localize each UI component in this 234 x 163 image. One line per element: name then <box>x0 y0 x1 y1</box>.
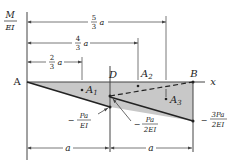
svg-text:a: a <box>84 39 89 48</box>
svg-text:2EI: 2EI <box>211 121 225 129</box>
svg-text:3: 3 <box>76 44 80 52</box>
centroid-a2 <box>137 85 140 88</box>
point-b-label: B <box>189 68 197 79</box>
svg-text:a: a <box>58 58 63 67</box>
svg-text:2: 2 <box>50 54 54 62</box>
point-d-mid <box>109 95 112 98</box>
y-axis-label-den: EI <box>5 23 16 32</box>
point-b <box>192 81 195 84</box>
svg-text:−: − <box>68 116 75 125</box>
point-d-bottom <box>109 106 112 109</box>
value-at-b: − 3Pa 2EI <box>201 111 227 129</box>
centroid-a3 <box>165 98 168 101</box>
svg-text:Pa: Pa <box>79 112 89 120</box>
svg-text:a: a <box>100 18 105 27</box>
x-axis-label: x <box>210 76 216 87</box>
point-a-label: A <box>12 76 21 87</box>
svg-text:3Pa: 3Pa <box>211 111 224 119</box>
svg-text:−: − <box>201 116 208 125</box>
svg-text:−: − <box>134 120 141 129</box>
leader-pa-ei <box>98 108 108 114</box>
point-b-bottom <box>192 120 195 123</box>
y-axis-label-num: M <box>4 10 15 20</box>
value-mid: − Pa 2EI <box>134 116 158 134</box>
point-d-label: D <box>108 69 117 80</box>
svg-text:2EI: 2EI <box>143 126 157 134</box>
moment-diagram: M EI x A D B A1 A2 A3 5 3 a 4 3 a 2 3 a … <box>0 0 234 163</box>
dim-bottom-a-left-label: a <box>65 143 70 153</box>
svg-text:3: 3 <box>50 63 54 71</box>
svg-text:3: 3 <box>92 23 96 31</box>
svg-text:EI: EI <box>79 122 88 130</box>
area-a2-label: A2 <box>140 68 153 81</box>
svg-text:5: 5 <box>92 14 96 22</box>
value-at-d: − Pa EI <box>68 112 91 130</box>
dim-bottom-a-right-label: a <box>148 143 153 153</box>
svg-text:4: 4 <box>76 35 81 43</box>
centroid-a1 <box>81 89 84 92</box>
svg-text:Pa: Pa <box>145 116 155 124</box>
